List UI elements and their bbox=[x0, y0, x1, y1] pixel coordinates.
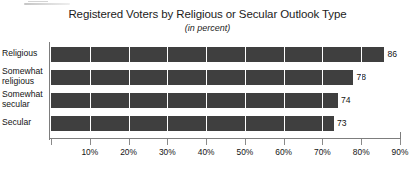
x-axis-tick-label: 40% bbox=[198, 147, 215, 157]
gridline bbox=[245, 43, 246, 138]
x-axis-tick-label: 60% bbox=[275, 147, 292, 157]
y-axis-label-line1: Secular bbox=[2, 117, 31, 127]
y-axis-label-line1: Somewhat bbox=[2, 66, 43, 76]
x-axis-tick bbox=[361, 139, 362, 145]
x-axis-tick-label: 20% bbox=[120, 147, 137, 157]
x-axis-end-cap bbox=[400, 132, 401, 139]
x-axis-tick-label: 90% bbox=[392, 147, 409, 157]
y-axis-label-line1: Somewhat bbox=[2, 89, 43, 99]
x-axis-tick bbox=[51, 139, 52, 145]
gridline bbox=[361, 43, 362, 138]
bar-value-religious: 86 bbox=[387, 49, 397, 59]
gridline bbox=[322, 43, 323, 138]
bar-secular[interactable] bbox=[51, 116, 334, 131]
bar-somewhat-secular[interactable] bbox=[51, 93, 338, 108]
x-axis-line bbox=[49, 138, 401, 139]
bar-religious[interactable] bbox=[51, 47, 384, 62]
gridline bbox=[206, 43, 207, 138]
y-axis-label-somewhat-religious: Somewhat religious bbox=[2, 67, 48, 86]
y-axis-line bbox=[49, 42, 50, 140]
bar-value-secular: 73 bbox=[337, 118, 347, 128]
gridline bbox=[90, 43, 91, 138]
gridline bbox=[129, 43, 130, 138]
gridline bbox=[284, 43, 285, 138]
y-axis-label-secular: Secular bbox=[2, 118, 48, 128]
x-axis-tick bbox=[284, 139, 285, 145]
x-axis-tick bbox=[206, 139, 207, 145]
x-axis-tick bbox=[322, 139, 323, 145]
y-axis-label-line1: Religious bbox=[2, 48, 37, 58]
x-axis-tick-label: 50% bbox=[236, 147, 253, 157]
y-axis-label-religious: Religious bbox=[2, 49, 48, 59]
x-axis-tick bbox=[245, 139, 246, 145]
x-axis-tick-label: 80% bbox=[353, 147, 370, 157]
x-axis-tick bbox=[167, 139, 168, 145]
x-axis-tick bbox=[400, 139, 401, 145]
bar-chart-plot-area: Religious Somewhat religious Somewhat se… bbox=[0, 0, 415, 176]
y-axis-label-line2: religious bbox=[2, 76, 34, 86]
x-axis-tick bbox=[90, 139, 91, 145]
gridline bbox=[400, 43, 401, 138]
x-axis-tick-label: 10% bbox=[81, 147, 98, 157]
y-axis-label-line2: secular bbox=[2, 99, 30, 109]
x-axis-tick bbox=[129, 139, 130, 145]
x-axis-tick-label: 30% bbox=[159, 147, 176, 157]
bar-value-somewhat-secular: 74 bbox=[341, 95, 351, 105]
gridline bbox=[167, 43, 168, 138]
bar-somewhat-religious[interactable] bbox=[51, 70, 353, 85]
x-axis-tick-label: 70% bbox=[314, 147, 331, 157]
y-axis-label-somewhat-secular: Somewhat secular bbox=[2, 90, 48, 109]
